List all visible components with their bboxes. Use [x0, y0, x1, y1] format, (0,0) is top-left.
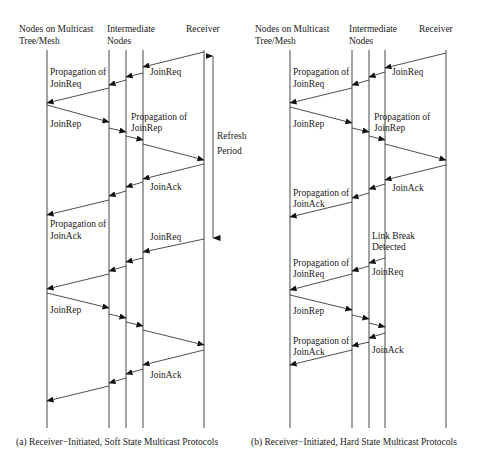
label-joinrep: JoinRep — [293, 306, 324, 316]
label-propagation-of: Propagation of — [50, 67, 107, 77]
label-propagation-joinack: JoinAck — [50, 231, 82, 241]
caption-panel-b: (b) Receiver−Initiated, Hard State Multi… — [251, 437, 457, 447]
label-joinack: JoinAck — [372, 345, 404, 355]
label-joinrep: JoinRep — [50, 119, 81, 129]
label-propagation-of: Propagation of — [50, 219, 107, 229]
label-joinack: JoinAck — [150, 182, 182, 192]
label-propagation-of: Propagation of — [131, 112, 188, 122]
label-refresh: Refresh — [217, 131, 247, 141]
label-joinreq: JoinReq — [372, 267, 403, 277]
label-joinrep: JoinRep — [293, 119, 324, 129]
message-joinreq-1 — [47, 52, 204, 103]
header-tree-mesh: Tree/Mesh — [19, 36, 60, 46]
header-intermediate: Intermediate — [349, 24, 397, 34]
label-propagation-of: Propagation of — [374, 112, 431, 122]
label-propagation-joinrep: JoinRep — [131, 123, 162, 133]
message-joinrep-2 — [47, 293, 204, 345]
message-joinreq-2 — [47, 239, 204, 289]
label-propagation-joinreq: JoinReq — [50, 79, 81, 89]
label-propagation-joinack: JoinAck — [293, 347, 325, 357]
label-joinreq: JoinReq — [150, 67, 181, 77]
label-joinreq: JoinReq — [150, 232, 181, 242]
label-propagation-of: Propagation of — [293, 67, 350, 77]
header-tree-mesh: Tree/Mesh — [255, 36, 296, 46]
label-propagation-of: Propagation of — [293, 336, 350, 346]
label-joinack: JoinAck — [150, 370, 182, 380]
message-joinreq-1 — [290, 53, 446, 103]
label-detected: Detected — [372, 242, 406, 252]
caption-panel-a: (a) Receiver−Initiated, Soft State Multi… — [16, 437, 218, 447]
label-propagation-joinreq: JoinReq — [293, 79, 324, 89]
header-nodes: Nodes — [349, 36, 374, 46]
label-propagation-joinack: JoinAck — [293, 199, 325, 209]
panel-b-hard-state: Nodes on Multicast Tree/Mesh Intermediat… — [255, 24, 454, 428]
label-joinreq: JoinReq — [392, 67, 423, 77]
header-intermediate: Intermediate — [107, 24, 155, 34]
label-period: Period — [217, 146, 242, 156]
sequence-diagram: Nodes on Multicast Tree/Mesh Intermediat… — [0, 0, 478, 464]
header-nodes: Nodes — [107, 36, 132, 46]
label-propagation-joinreq: JoinReq — [293, 269, 324, 279]
label-link-break: Link Break — [372, 231, 415, 241]
label-joinack: JoinAck — [392, 183, 424, 193]
label-joinrep: JoinRep — [50, 305, 81, 315]
header-receiver: Receiver — [186, 24, 221, 34]
header-nodes-on-multicast: Nodes on Multicast — [255, 24, 330, 34]
header-nodes-on-multicast: Nodes on Multicast — [19, 24, 94, 34]
label-propagation-of: Propagation of — [293, 258, 350, 268]
label-propagation-of: Propagation of — [293, 188, 350, 198]
header-receiver: Receiver — [419, 24, 454, 34]
panel-a-soft-state: Nodes on Multicast Tree/Mesh Intermediat… — [19, 24, 247, 428]
label-propagation-joinrep: JoinRep — [374, 123, 405, 133]
